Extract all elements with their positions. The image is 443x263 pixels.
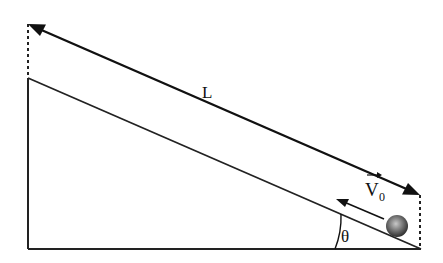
velocity-label: V 0 [365, 172, 385, 204]
diagram-svg: L V 0 θ [0, 0, 443, 263]
length-label: L [202, 83, 212, 102]
velocity-symbol: V [365, 179, 379, 200]
angle-label: θ [341, 227, 349, 246]
length-arrow-L [28, 24, 420, 195]
velocity-subscript: 0 [379, 190, 385, 204]
inclined-plane-diagram: L V 0 θ [0, 0, 443, 263]
ball [386, 215, 408, 237]
incline-surface [28, 78, 421, 249]
